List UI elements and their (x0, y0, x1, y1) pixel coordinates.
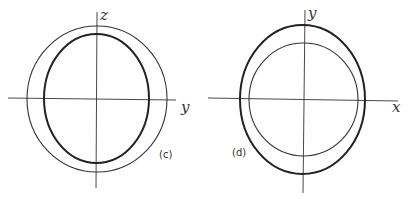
horizontal-axis (8, 98, 176, 100)
vertical-axis (303, 10, 305, 193)
vertical-axis (96, 12, 97, 188)
panel-tag: (d) (232, 147, 246, 158)
axis-label-y: y (180, 98, 190, 116)
horizontal-axis (208, 98, 398, 101)
figure: z y (c) y x (d) (0, 0, 409, 199)
axis-label-z: z (99, 6, 108, 24)
panel-tag: (c) (159, 149, 172, 160)
axis-label-y: y (307, 4, 317, 22)
panel-c: z y (c) (8, 6, 190, 188)
panel-d: y x (d) (208, 4, 401, 193)
axis-label-x: x (392, 98, 401, 116)
